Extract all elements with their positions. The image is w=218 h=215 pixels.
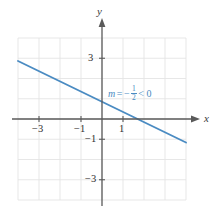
graph-figure: y x −3 −1 1 3 −1 −3 m = − 1 2 < 0 xyxy=(0,0,218,215)
fraction-numerator: 1 xyxy=(131,85,137,93)
x-tick-label-1: 1 xyxy=(119,124,124,135)
y-tick-label-neg1: −1 xyxy=(85,134,96,145)
x-tick-label-neg3: −3 xyxy=(32,124,43,135)
y-axis-label: y xyxy=(97,6,102,17)
x-axis xyxy=(12,116,200,123)
slope-annotation: m = − 1 2 < 0 xyxy=(108,85,151,102)
x-tick-label-neg1: −1 xyxy=(74,124,85,135)
comparison-text: < 0 xyxy=(138,89,151,99)
minus-sign: − xyxy=(124,89,130,99)
x-axis-label: x xyxy=(204,113,209,124)
y-tick-label-3: 3 xyxy=(88,53,93,64)
slope-variable: m xyxy=(108,89,115,99)
y-axis xyxy=(99,18,106,206)
equals-sign: = xyxy=(117,89,123,99)
fraction-denominator: 2 xyxy=(131,94,137,102)
y-tick-label-neg3: −3 xyxy=(85,174,96,185)
fraction-one-half: 1 2 xyxy=(131,85,137,102)
coordinate-plane xyxy=(0,0,218,215)
